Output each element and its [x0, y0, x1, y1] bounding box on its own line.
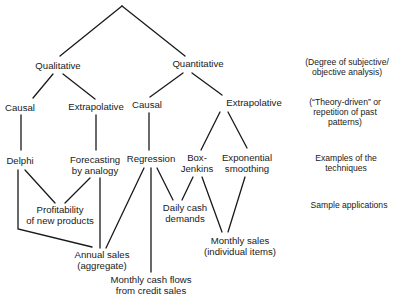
boxjenkins-line1: Box-	[181, 153, 214, 164]
exponential-line2: smoothing	[222, 164, 272, 175]
daily-cash-line1: Daily cash	[163, 203, 207, 214]
node-causal-quantitative: Causal	[132, 100, 162, 111]
side-label-line: Sample applications	[311, 200, 388, 210]
monthly-cash-line2: from credit sales	[110, 286, 191, 296]
side-label-line: techniques	[315, 163, 377, 173]
side-label-subjective-objective: (Degree of subjective/ objective analysi…	[305, 57, 389, 77]
node-extrapolative-quantitative: Extrapolative	[226, 98, 281, 109]
node-box-jenkins: Box- Jenkins	[181, 153, 214, 174]
forecasting-line1: Forecasting	[70, 155, 120, 166]
boxjenkins-line2: Jenkins	[181, 164, 214, 175]
side-label-line: (“Theory-driven” or	[309, 97, 381, 107]
node-qualitative: Qualitative	[35, 61, 80, 72]
monthly-sales-line2: (individual items)	[204, 247, 276, 258]
node-daily-cash-demands: Daily cash demands	[163, 203, 207, 224]
node-regression: Regression	[127, 154, 176, 165]
side-label-examples: Examples of the techniques	[315, 153, 377, 173]
side-label-sample-applications: Sample applications	[311, 200, 388, 210]
node-delphi: Delphi	[6, 156, 33, 167]
side-label-line: repetition of past	[309, 107, 381, 117]
node-monthly-cash-flows: Monthly cash flows from credit sales	[110, 275, 191, 296]
monthly-sales-line1: Monthly sales	[204, 236, 276, 247]
side-label-theory-driven: (“Theory-driven” or repetition of past p…	[309, 97, 381, 127]
exponential-line1: Exponential	[222, 153, 272, 164]
annual-sales-line1: Annual sales	[75, 250, 130, 261]
daily-cash-line2: demands	[163, 214, 207, 225]
node-quantitative: Quantitative	[172, 59, 223, 70]
side-label-line: Examples of the	[315, 153, 377, 163]
node-annual-sales: Annual sales (aggregate)	[75, 250, 130, 271]
connector-lines	[0, 0, 394, 296]
side-label-line: (Degree of subjective/	[305, 57, 389, 67]
side-label-line: objective analysis)	[305, 67, 389, 77]
profitability-line2: of new products	[26, 216, 94, 227]
node-forecasting-by-analogy: Forecasting by analogy	[70, 155, 120, 176]
side-label-line: patterns)	[309, 117, 381, 127]
annual-sales-line2: (aggregate)	[75, 261, 130, 272]
node-causal-qualitative: Causal	[5, 103, 35, 114]
profitability-line1: Profitability	[26, 205, 94, 216]
node-extrapolative-qualitative: Extrapolative	[68, 102, 123, 113]
forecasting-line2: by analogy	[70, 166, 120, 177]
monthly-cash-line1: Monthly cash flows	[110, 275, 191, 286]
node-monthly-sales: Monthly sales (individual items)	[204, 236, 276, 257]
node-profitability-new-products: Profitability of new products	[26, 205, 94, 226]
node-exponential-smoothing: Exponential smoothing	[222, 153, 272, 174]
